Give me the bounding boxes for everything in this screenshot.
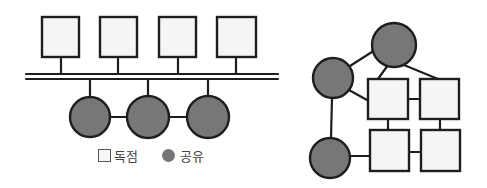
exclusive-node <box>370 130 409 171</box>
square-icon <box>98 149 111 162</box>
shared-node <box>310 138 350 178</box>
circle-icon <box>162 149 175 162</box>
exclusive-node <box>368 79 408 119</box>
legend: 독점 공유 <box>98 146 228 164</box>
exclusive-node <box>421 130 460 171</box>
shared-node <box>187 96 229 138</box>
legend-label: 독점 <box>114 146 138 165</box>
exclusive-node <box>100 17 137 57</box>
shared-node <box>127 96 169 138</box>
legend-item-shared: 공유 <box>162 146 204 165</box>
exclusive-node <box>420 79 459 119</box>
exclusive-node <box>159 17 196 57</box>
legend-label: 공유 <box>180 146 204 165</box>
diagram-canvas <box>0 0 487 188</box>
legend-item-exclusive: 독점 <box>98 146 138 165</box>
shared-node <box>70 97 110 137</box>
shared-node <box>372 23 416 67</box>
exclusive-node <box>42 17 79 57</box>
exclusive-node <box>217 17 256 57</box>
shared-node <box>313 58 353 98</box>
